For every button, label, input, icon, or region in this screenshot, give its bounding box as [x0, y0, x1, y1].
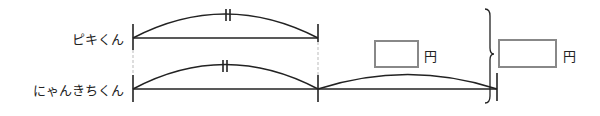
unit-yen-1: 円: [424, 46, 437, 65]
unit-yen-2: 円: [563, 46, 576, 65]
answer-box-difference[interactable]: [374, 40, 419, 68]
answer-box-total[interactable]: [498, 39, 557, 68]
arc-nyankichi-1: [133, 65, 318, 90]
arc-nyankichi-2: [318, 75, 497, 90]
